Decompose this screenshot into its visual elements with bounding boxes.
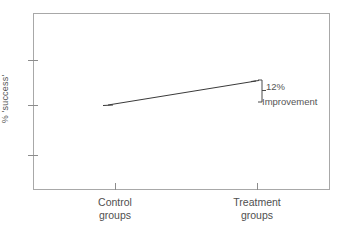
x-axis-label-treatment-text: Treatment groups <box>233 196 280 221</box>
data-point-marker-treatment <box>251 81 259 82</box>
annotation-percent: 12% <box>266 81 285 92</box>
data-point-marker-control <box>103 105 113 106</box>
x-axis-label-control: Control groups <box>60 196 170 222</box>
annotation-caption: Improvement <box>262 96 317 107</box>
chart-figure: % 'success' 12% Improvement Control grou… <box>0 0 345 236</box>
x-axis-label-control-text: Control groups <box>98 196 132 221</box>
data-series-line <box>108 81 256 105</box>
x-axis-label-treatment: Treatment groups <box>202 196 312 222</box>
